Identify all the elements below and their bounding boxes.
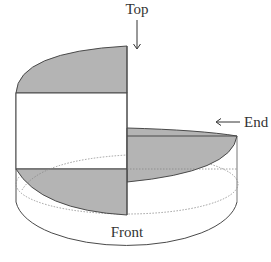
cylinder-section-diagram: Top End Front [0, 0, 271, 262]
end-label: End [244, 114, 269, 130]
front-view-shape [16, 169, 127, 215]
top-view-shape [16, 46, 127, 93]
top-label: Top [125, 1, 148, 17]
front-label: Front [111, 224, 144, 240]
section-rectangle [16, 93, 127, 169]
